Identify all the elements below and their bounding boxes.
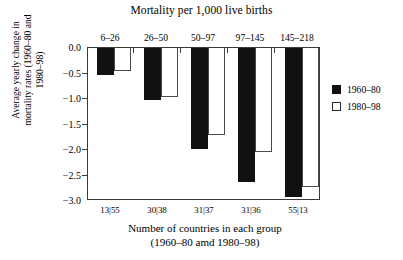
top-tick-3 <box>227 48 228 53</box>
bar-1980-98-group-2 <box>208 48 225 135</box>
y-tick-label-1: −0.5 <box>41 67 81 78</box>
y-axis-label-line2: mortality rates (1960–80 and <box>22 0 34 150</box>
group-count-3: 31|36 <box>241 205 260 215</box>
y-tick-label-6: −3.0 <box>41 195 81 206</box>
bar-1960-80-group-3 <box>238 48 255 182</box>
y-tick-label-0: 0.0 <box>41 42 81 53</box>
y-tick-label-4: −2.0 <box>41 144 81 155</box>
y-axis-label-line1: Average yearly change in <box>10 0 22 150</box>
top-tick-2 <box>180 48 181 53</box>
bar-1960-80-group-4 <box>285 48 302 197</box>
chart-title: Mortality per 1,000 live births <box>0 4 403 16</box>
filled-square-icon <box>332 85 341 94</box>
legend-label-1980-98: 1980–98 <box>347 101 381 112</box>
legend-item-1980-98: 1980–98 <box>332 99 402 114</box>
category-label-3: 97–145 <box>236 32 265 43</box>
legend-label-1960-80: 1960–80 <box>347 84 381 95</box>
bar-1960-80-group-2 <box>191 48 208 149</box>
x-axis-label-line1: Number of countries in each group <box>60 221 350 235</box>
y-tick-label-2: −1.0 <box>41 93 81 104</box>
bar-1980-98-group-0 <box>114 48 131 71</box>
group-count-4: 55|13 <box>288 205 307 215</box>
y-tick-label-3: −1.5 <box>41 118 81 129</box>
chart-legend: 1960–80 1980–98 <box>332 82 402 116</box>
group-count-0: 13|55 <box>100 205 119 215</box>
category-label-0: 6–26 <box>100 32 119 43</box>
bar-1980-98-group-3 <box>255 48 272 152</box>
y-axis-label: Average yearly change in mortality rates… <box>10 0 40 150</box>
category-label-1: 26–50 <box>144 32 168 43</box>
category-label-2: 50–97 <box>191 32 215 43</box>
bar-1980-98-group-1 <box>161 48 178 97</box>
top-tick-4 <box>274 48 275 53</box>
x-axis-label: Number of countries in each group (1960–… <box>60 221 350 249</box>
x-axis-label-line2: (1960–80 amd 1980–98) <box>60 235 350 249</box>
bar-1960-80-group-0 <box>97 48 114 75</box>
bar-1960-80-group-1 <box>144 48 161 100</box>
plot-area <box>87 47 320 200</box>
bar-chart-figure: Mortality per 1,000 live births Average … <box>0 0 403 260</box>
top-tick-1 <box>133 48 134 53</box>
bar-1980-98-group-4 <box>302 48 319 187</box>
category-label-4: 145–218 <box>280 32 314 43</box>
open-square-icon <box>332 102 341 111</box>
y-tick-label-5: −2.5 <box>41 169 81 180</box>
legend-item-1960-80: 1960–80 <box>332 82 402 97</box>
group-count-2: 31|37 <box>194 205 213 215</box>
group-count-1: 30|38 <box>147 205 166 215</box>
